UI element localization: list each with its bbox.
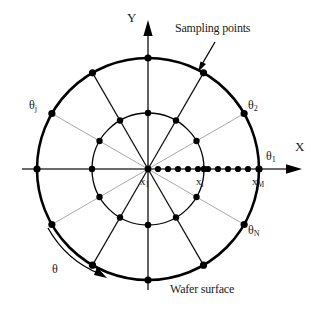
sampling-points-annotation: Sampling points xyxy=(175,22,250,34)
theta-rotation-label: θ xyxy=(52,263,58,275)
xM-point-label: xM xyxy=(252,176,264,188)
theta-N-label: θN xyxy=(248,224,260,238)
theta-2-label: θ2 xyxy=(248,99,258,113)
theta-1-label: θ1 xyxy=(266,150,276,164)
x1-point-label: x1 xyxy=(140,176,149,188)
sampling-points-pointer-arrow xyxy=(198,42,215,72)
wafer-surface-caption: Wafer surface xyxy=(170,283,234,295)
y-axis-label: Y xyxy=(127,11,136,24)
x-axis-label: X xyxy=(295,140,304,153)
theta-j-label: θj xyxy=(29,99,37,113)
xi-point-label: xi xyxy=(196,176,204,188)
